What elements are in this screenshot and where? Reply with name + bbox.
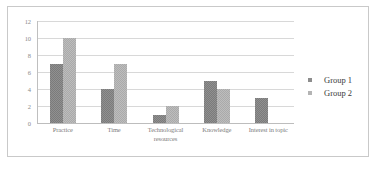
square-marker-icon	[308, 78, 312, 82]
x-axis-tick-labels: PracticeTimeTechnological resourcesKnowl…	[37, 126, 294, 154]
legend-item[interactable]: Group 1	[308, 73, 370, 86]
bar	[255, 98, 268, 124]
bar	[50, 64, 63, 124]
x-tick-label: Time	[88, 126, 139, 135]
bar	[101, 89, 114, 123]
legend-item-label: Group 2	[324, 88, 352, 98]
chart-legend: Group 1Group 2	[308, 73, 370, 99]
y-tick-label: 8	[28, 52, 31, 59]
legend-item-label: Group 1	[324, 75, 352, 85]
chart-frame: 024681012 PracticeTimeTechnological reso…	[7, 6, 369, 157]
bar	[204, 81, 217, 124]
gridline	[37, 123, 294, 124]
bar	[63, 38, 76, 123]
x-tick-label: Practice	[37, 126, 88, 135]
bar	[114, 64, 127, 124]
plot-area	[37, 21, 294, 123]
y-axis-tick-labels: 024681012	[8, 21, 34, 123]
y-tick-label: 2	[28, 103, 31, 110]
y-tick-label: 6	[28, 69, 31, 76]
bar	[153, 115, 166, 124]
square-marker-icon	[308, 91, 312, 95]
bars-layer	[37, 21, 294, 123]
y-tick-label: 12	[25, 18, 31, 25]
bar	[166, 106, 179, 123]
y-tick-label: 4	[28, 86, 31, 93]
legend-item[interactable]: Group 2	[308, 86, 370, 99]
bar	[217, 89, 230, 123]
x-tick-label: Knowledge	[191, 126, 242, 135]
x-tick-label: Interest in topic	[243, 126, 294, 135]
y-tick-label: 0	[28, 120, 31, 127]
y-tick-label: 10	[25, 35, 31, 42]
x-tick-label: Technological resources	[140, 126, 191, 143]
